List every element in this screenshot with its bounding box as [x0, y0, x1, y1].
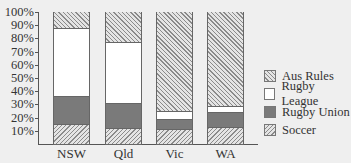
bar-vic — [156, 12, 193, 145]
legend-label: Soccer — [282, 123, 316, 138]
y-tick — [35, 52, 39, 53]
y-tick-label: 10% — [0, 125, 34, 137]
segment-rugby-league — [157, 111, 192, 119]
segment-aus-rules — [208, 12, 243, 106]
y-tick-label: 20% — [0, 112, 34, 124]
segment-rugby-league — [106, 42, 141, 103]
y-tick — [35, 118, 39, 119]
segment-rugby-union — [106, 103, 141, 128]
y-tick-label: 100% — [0, 6, 34, 18]
segment-aus-rules — [157, 12, 192, 111]
y-tick-label: 50% — [0, 72, 34, 84]
y-tick — [35, 25, 39, 26]
segment-soccer — [208, 127, 243, 144]
segment-aus-rules — [54, 12, 89, 28]
y-tick-label: 40% — [0, 85, 34, 97]
legend-swatch — [264, 88, 275, 100]
segment-rugby-league — [208, 106, 243, 113]
segment-aus-rules — [106, 12, 141, 42]
y-tick — [35, 12, 39, 13]
legend-item-rugby-league: Rugby League — [264, 85, 351, 103]
y-tick — [35, 91, 39, 92]
legend-label: Rugby Union — [282, 105, 350, 120]
segment-rugby-league — [54, 28, 89, 97]
legend-item-rugby-union: Rugby Union — [264, 103, 351, 121]
legend-item-soccer: Soccer — [264, 121, 351, 139]
segment-rugby-union — [157, 119, 192, 130]
x-tick-label: Vic — [150, 146, 200, 162]
y-tick — [35, 65, 39, 66]
segment-soccer — [106, 128, 141, 144]
segment-soccer — [157, 129, 192, 144]
legend-swatch — [264, 70, 276, 82]
stacked-bar-chart: 10%20%30%40%50%60%70%80%90%100% NSWQldVi… — [0, 0, 351, 163]
legend: Aus RulesRugby LeagueRugby UnionSoccer — [264, 67, 351, 139]
y-tick-label: 30% — [0, 98, 34, 110]
segment-rugby-union — [208, 112, 243, 127]
y-tick — [35, 131, 39, 132]
segment-rugby-union — [54, 96, 89, 124]
y-tick — [35, 78, 39, 79]
bar-nsw — [53, 12, 90, 145]
y-tick-label: 90% — [0, 19, 34, 31]
legend-swatch — [264, 124, 276, 136]
legend-swatch — [264, 106, 276, 118]
y-tick-label: 70% — [0, 46, 34, 58]
y-tick — [35, 38, 39, 39]
bar-wa — [207, 12, 244, 145]
y-tick — [35, 104, 39, 105]
y-tick-label: 80% — [0, 32, 34, 44]
x-tick-label: NSW — [47, 146, 97, 162]
y-tick-label: 60% — [0, 59, 34, 71]
x-tick-label: WA — [201, 146, 251, 162]
x-tick-label: Qld — [99, 146, 149, 162]
segment-soccer — [54, 124, 89, 144]
bar-qld — [105, 12, 142, 145]
